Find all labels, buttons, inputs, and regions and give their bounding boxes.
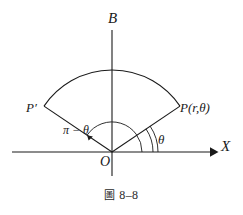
figure-caption: 圖 8–8 [0,186,243,203]
figure-caption-symbol: 圖 [104,189,115,202]
angle-label-theta: θ [158,133,164,146]
origin-label: O [100,155,110,169]
figure-caption-number: 8–8 [119,188,138,202]
angle-label-pi-minus-theta: π − θ [63,124,89,136]
axis-label-x: X [221,139,230,154]
point-label-p: P(r,θ) [180,101,210,114]
angle-arc-theta-inner [146,129,153,152]
figure-diagram: B X O P(r,θ) P′ π − θ θ 圖 8–8 [0,0,243,215]
x-axis-arrowhead [210,147,219,157]
point-label-p-prime: P′ [26,101,37,114]
axis-label-b: B [108,11,117,26]
